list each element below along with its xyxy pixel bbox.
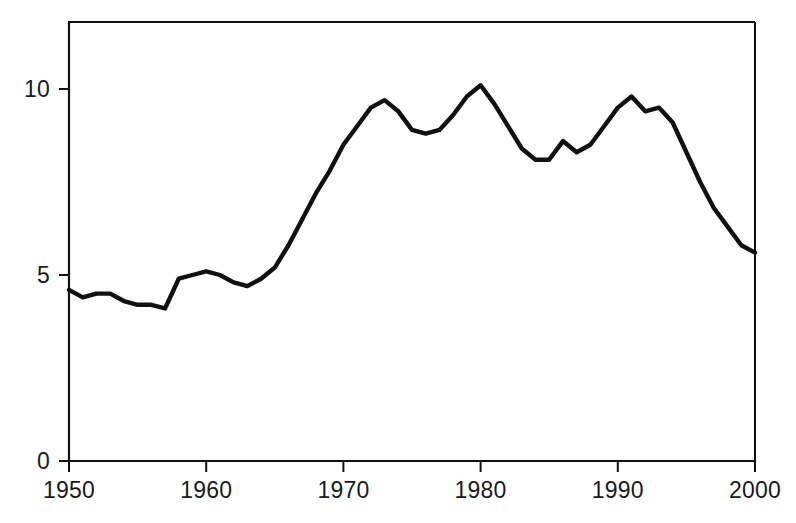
y-tick-label: 0 xyxy=(37,448,50,474)
x-tick-label: 1950 xyxy=(43,477,95,503)
data-series-group xyxy=(69,85,755,308)
x-tick-label: 1960 xyxy=(180,477,232,503)
x-axis-tick-labels: 195019601970198019902000 xyxy=(43,477,781,503)
series-line xyxy=(69,85,755,308)
x-tick-label: 1980 xyxy=(455,477,507,503)
x-tick-label: 1970 xyxy=(317,477,369,503)
x-axis-ticks xyxy=(69,447,755,472)
chart-container: 0510 195019601970198019902000 xyxy=(0,0,796,523)
x-tick-label: 2000 xyxy=(729,477,781,503)
y-tick-label: 10 xyxy=(24,76,50,102)
plot-frame xyxy=(69,22,755,461)
y-axis-ticks xyxy=(59,89,69,461)
y-axis-tick-labels: 0510 xyxy=(24,76,50,474)
x-tick-label: 1990 xyxy=(592,477,644,503)
line-chart: 0510 195019601970198019902000 xyxy=(0,0,796,523)
y-tick-label: 5 xyxy=(37,262,50,288)
